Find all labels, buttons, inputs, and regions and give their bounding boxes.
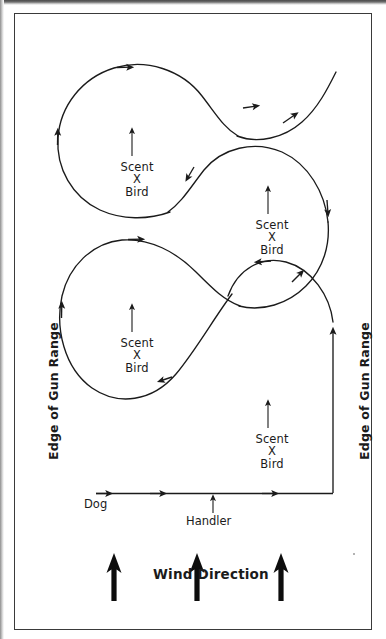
edge-of-gun-range-right-label: Edge of Gun Range bbox=[358, 322, 372, 460]
dog-arrow-upper-right-top bbox=[243, 106, 257, 108]
scent-marker-line-3: Bird bbox=[238, 458, 306, 470]
scent-marker-line-3: Bird bbox=[238, 244, 306, 256]
scent-marker-line-2: X bbox=[238, 231, 306, 243]
scent-bird-marker: ScentXBird bbox=[238, 433, 306, 470]
dog-arrow-cross-lower bbox=[292, 272, 302, 282]
handler-label: Handler bbox=[186, 515, 231, 527]
scent-marker-line-3: Bird bbox=[103, 362, 171, 374]
scent-marker-line-2: X bbox=[103, 349, 171, 361]
wind-direction-label: Wind Direction bbox=[153, 567, 269, 582]
scent-marker-line-2: X bbox=[238, 445, 306, 457]
wind-direction-arrow bbox=[107, 553, 122, 601]
scan-speck bbox=[353, 553, 355, 555]
edge-of-gun-range-left-label: Edge of Gun Range bbox=[47, 322, 61, 460]
dog-label: Dog bbox=[84, 498, 107, 510]
scent-bird-marker: ScentXBird bbox=[103, 161, 171, 198]
scent-bird-marker: ScentXBird bbox=[103, 337, 171, 374]
scent-bird-marker: ScentXBird bbox=[238, 219, 306, 256]
scent-marker-line-3: Bird bbox=[103, 186, 171, 198]
dog-arrow-crossover-down bbox=[187, 167, 194, 179]
dog-arrow-bottom-right-loop bbox=[257, 261, 271, 262]
figure-page: Edge of Gun Range Edge of Gun Range Dog … bbox=[0, 0, 386, 639]
dog-arrow-exit-tail bbox=[283, 114, 296, 123]
wind-direction-arrow bbox=[274, 553, 289, 601]
diagram-canvas bbox=[0, 0, 386, 639]
scent-marker-line-2: X bbox=[103, 173, 171, 185]
